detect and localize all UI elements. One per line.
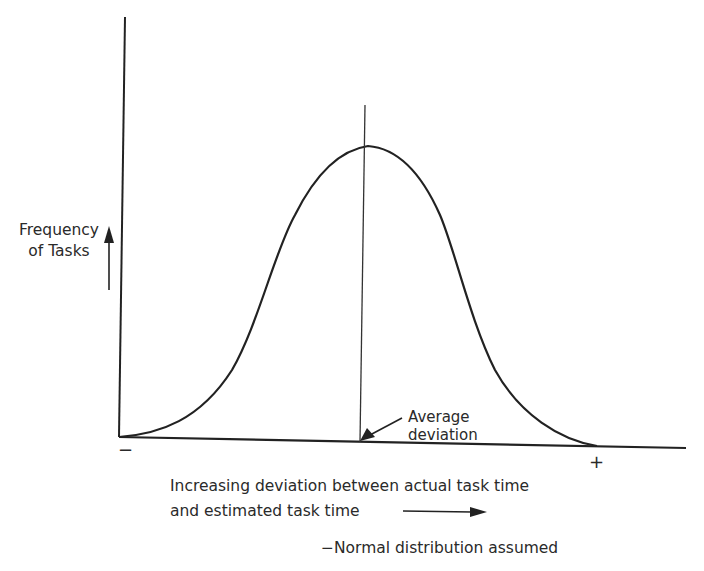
x-axis-label-line1: Increasing deviation between actual task… bbox=[170, 474, 529, 499]
x-axis-label: Increasing deviation between actual task… bbox=[170, 474, 529, 524]
annotation-line2: deviation bbox=[408, 426, 478, 444]
x-axis-positive-sign: + bbox=[589, 453, 604, 471]
y-axis-line bbox=[119, 17, 125, 437]
normal-distribution-curve bbox=[119, 146, 597, 446]
annotation-line1: Average bbox=[408, 408, 478, 426]
x-axis-line bbox=[119, 437, 686, 448]
footnote: −Normal distribution assumed bbox=[321, 541, 558, 557]
x-axis-negative-sign: − bbox=[118, 441, 133, 459]
y-axis-label: Frequency of Tasks bbox=[9, 220, 109, 262]
average-deviation-line bbox=[360, 105, 365, 442]
y-axis-label-line2: of Tasks bbox=[9, 241, 109, 262]
annotation-arrow-icon bbox=[360, 418, 402, 441]
average-deviation-annotation: Average deviation bbox=[408, 408, 478, 444]
y-axis-label-line1: Frequency bbox=[9, 220, 109, 241]
x-axis-label-line2: and estimated task time bbox=[170, 499, 529, 524]
